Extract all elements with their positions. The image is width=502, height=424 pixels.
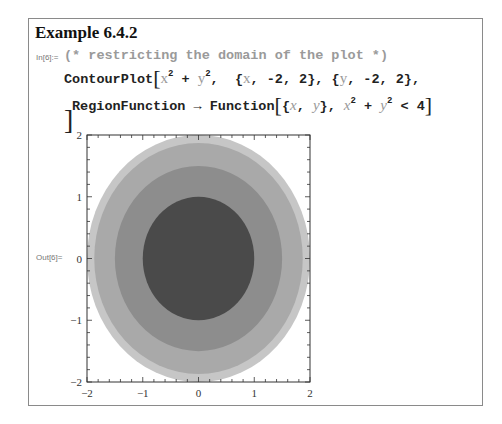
exponent: 2 bbox=[351, 96, 356, 106]
cond-y: y bbox=[380, 97, 387, 113]
arg-separator: , bbox=[297, 99, 313, 114]
y-tick-label: −1 bbox=[70, 314, 82, 326]
x-tick-label: 0 bbox=[196, 387, 202, 399]
section-title: Example 6.4.2 bbox=[35, 23, 137, 43]
plus-sign: + bbox=[173, 72, 197, 87]
cond-x: x bbox=[344, 97, 351, 113]
x-tick-label: −1 bbox=[137, 387, 149, 399]
var-x: x bbox=[160, 70, 168, 86]
x-tick-label: 2 bbox=[307, 387, 313, 399]
close-bracket: ] bbox=[425, 92, 432, 117]
range-x-rest: , -2, 2} bbox=[251, 72, 316, 87]
range-y-rest: , -2, 2}, bbox=[347, 72, 420, 87]
output-label: Out[6]= bbox=[36, 253, 62, 262]
arg-y: y bbox=[313, 97, 320, 113]
args-close: }, bbox=[320, 99, 336, 114]
y-tick-label: 2 bbox=[77, 129, 83, 141]
function-keyword: Function bbox=[210, 99, 275, 114]
exponent: 2 bbox=[387, 96, 392, 106]
rule-arrow: → bbox=[194, 99, 202, 114]
x-tick-label: 1 bbox=[252, 387, 258, 399]
contour-plot[interactable]: −2−1012−2−1012 bbox=[60, 128, 330, 408]
y-tick-label: 1 bbox=[77, 191, 83, 203]
open-bracket: [ bbox=[275, 92, 282, 117]
function-name: ContourPlot bbox=[64, 72, 153, 87]
contour-fills bbox=[87, 135, 310, 382]
code-line-regionfunction[interactable]: RegionFunction → Function[{x, y}, x2 + y… bbox=[72, 96, 432, 114]
comma: , bbox=[211, 72, 227, 87]
comma: , bbox=[315, 72, 331, 87]
y-tick-label: 0 bbox=[77, 253, 83, 265]
code-comment[interactable]: (* restricting the domain of the plot *) bbox=[64, 48, 388, 63]
args-open: { bbox=[282, 99, 290, 114]
range-y-var: y bbox=[340, 70, 348, 86]
arg-x: x bbox=[290, 97, 297, 113]
range-x-var: x bbox=[243, 70, 251, 86]
contour-region bbox=[143, 197, 255, 321]
y-tick-label: −2 bbox=[70, 376, 82, 388]
range-y-open: { bbox=[332, 72, 340, 87]
condition-rest: < 4 bbox=[400, 99, 424, 114]
code-line-contourplot[interactable]: ContourPlot[x2 + y2, {x, -2, 2}, {y, -2,… bbox=[64, 69, 420, 87]
x-tick-label: −2 bbox=[81, 387, 93, 399]
range-x-open: { bbox=[235, 72, 243, 87]
input-label: In[6]:= bbox=[36, 53, 58, 62]
option-name: RegionFunction bbox=[72, 99, 185, 114]
